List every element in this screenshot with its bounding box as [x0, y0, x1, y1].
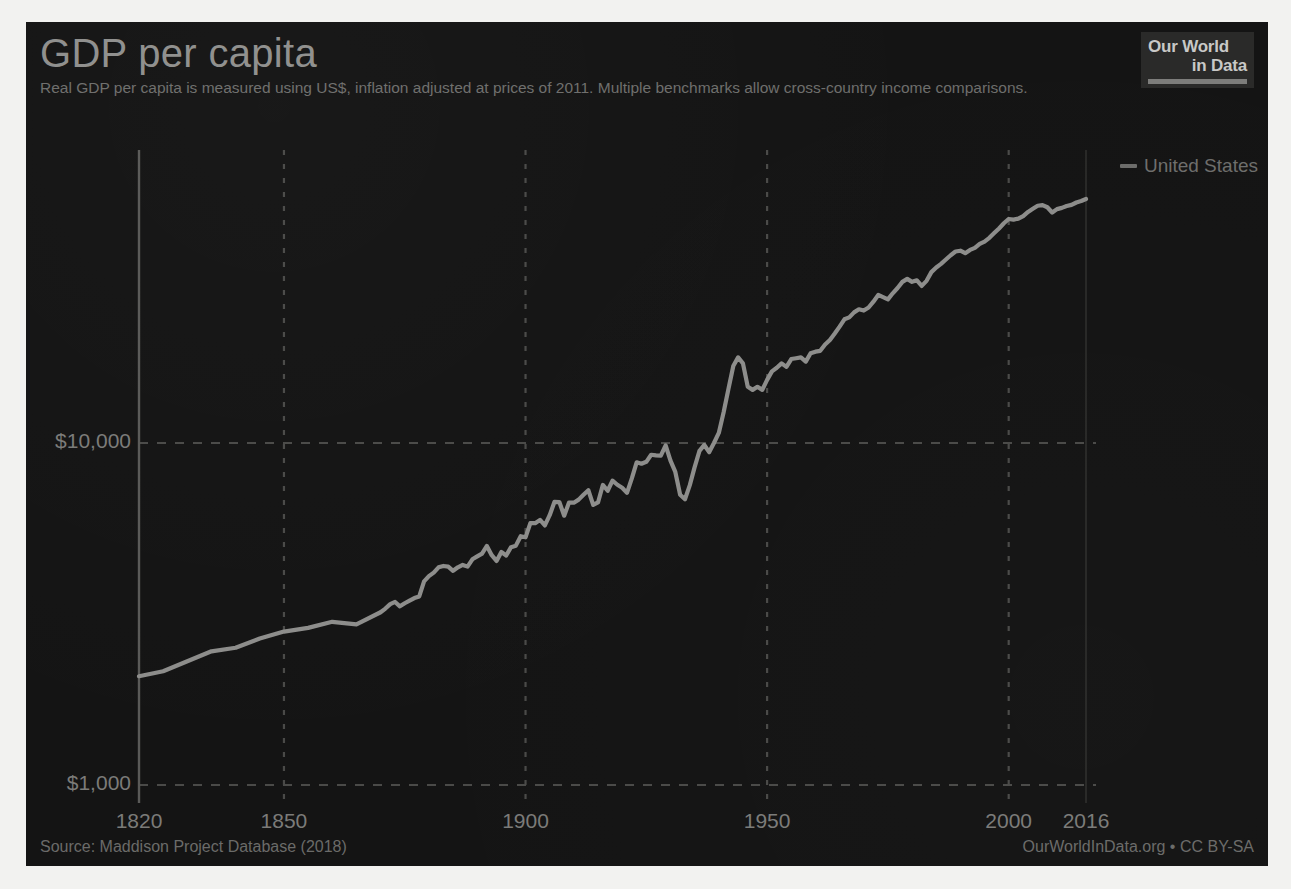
attribution-note[interactable]: OurWorldInData.org • CC BY-SA [1023, 838, 1254, 856]
y-tick-label: $10,000 [55, 429, 131, 453]
legend-entry-united-states: United States [1144, 155, 1258, 177]
x-tick-label: 1820 [79, 809, 199, 833]
legend-line-marker-icon [1120, 164, 1137, 168]
x-tick-label: 1900 [466, 809, 586, 833]
x-tick-label: 1850 [224, 809, 344, 833]
chart-legend[interactable]: United States [1120, 155, 1258, 177]
chart-panel: GDP per capita Real GDP per capita is me… [26, 22, 1268, 866]
x-tick-label: 2016 [1026, 809, 1146, 833]
plot-svg [26, 22, 1268, 866]
plot-area: $1,000$10,000182018501900195020002016 [26, 22, 1268, 866]
y-tick-label: $1,000 [67, 771, 131, 795]
chart-page: GDP per capita Real GDP per capita is me… [0, 0, 1291, 889]
series-line-0 [139, 199, 1086, 676]
source-note: Source: Maddison Project Database (2018) [40, 838, 347, 856]
x-tick-label: 1950 [707, 809, 827, 833]
